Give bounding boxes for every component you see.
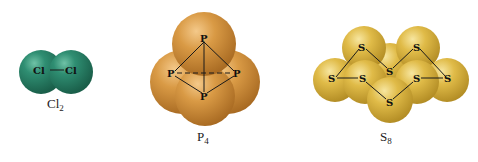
p-atom-label: P [233,68,241,79]
cl2-molecule: Cl Cl Cl2 [19,50,93,113]
s8-molecule: S S S S S S S S S8 [313,26,469,146]
molecule-figure: Cl Cl Cl2 P P P P P4 [0,0,478,162]
s-atom-label: S [386,66,393,77]
s-atom-label: S [359,73,366,84]
p4-caption: P4 [197,129,209,146]
s8-caption: S8 [380,129,392,146]
s-atom-label: S [328,73,335,84]
s-atom-label: S [413,42,420,53]
p-atom-label: P [200,91,208,102]
s-atom-label: S [358,42,365,53]
cl-atom-label: Cl [65,65,77,76]
p4-molecule: P P P P P4 [150,12,260,146]
s-atom-label: S [444,73,451,84]
s-atom-label: S [386,97,393,108]
cl2-caption: Cl2 [47,96,64,113]
s-atom-label: S [413,73,420,84]
cl-atom-label: Cl [33,65,45,76]
molecule-diagram: Cl Cl Cl2 P P P P P4 [0,0,478,162]
p-atom-label: P [167,68,175,79]
p-atom-label: P [200,33,208,44]
